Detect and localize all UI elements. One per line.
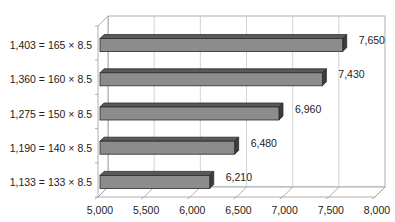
bar xyxy=(100,103,283,120)
value-label: 7,650 xyxy=(359,34,385,46)
value-label: 6,210 xyxy=(226,171,252,183)
category-label: 1,360 = 160 × 8.5 xyxy=(10,73,92,85)
category-label: 1,275 = 150 × 8.5 xyxy=(10,108,92,120)
category-labels: 1,403 = 165 × 8.51,360 = 160 × 8.51,275 … xyxy=(10,39,92,188)
x-tick-label: 8,000 xyxy=(364,204,390,216)
category-label: 1,190 = 140 × 8.5 xyxy=(10,142,92,154)
bar xyxy=(100,137,239,154)
x-axis-tick-labels: 5,0005,5006,0006,5007,0007,5008,000 xyxy=(87,204,390,216)
x-tick-label: 6,500 xyxy=(225,204,251,216)
value-label: 6,480 xyxy=(251,137,277,149)
bar-chart: 1,403 = 165 × 8.51,360 = 160 × 8.51,275 … xyxy=(0,0,395,222)
value-label: 7,430 xyxy=(338,68,364,80)
category-label: 1,403 = 165 × 8.5 xyxy=(10,39,92,51)
bar xyxy=(100,171,214,188)
bar xyxy=(100,69,326,86)
x-tick-label: 6,000 xyxy=(179,204,205,216)
value-label: 6,960 xyxy=(295,103,321,115)
x-tick-label: 5,500 xyxy=(133,204,159,216)
bar xyxy=(100,35,347,52)
x-tick-label: 7,000 xyxy=(272,204,298,216)
x-tick-label: 5,000 xyxy=(87,204,113,216)
x-tick-label: 7,500 xyxy=(318,204,344,216)
category-label: 1,133 = 133 × 8.5 xyxy=(10,176,92,188)
